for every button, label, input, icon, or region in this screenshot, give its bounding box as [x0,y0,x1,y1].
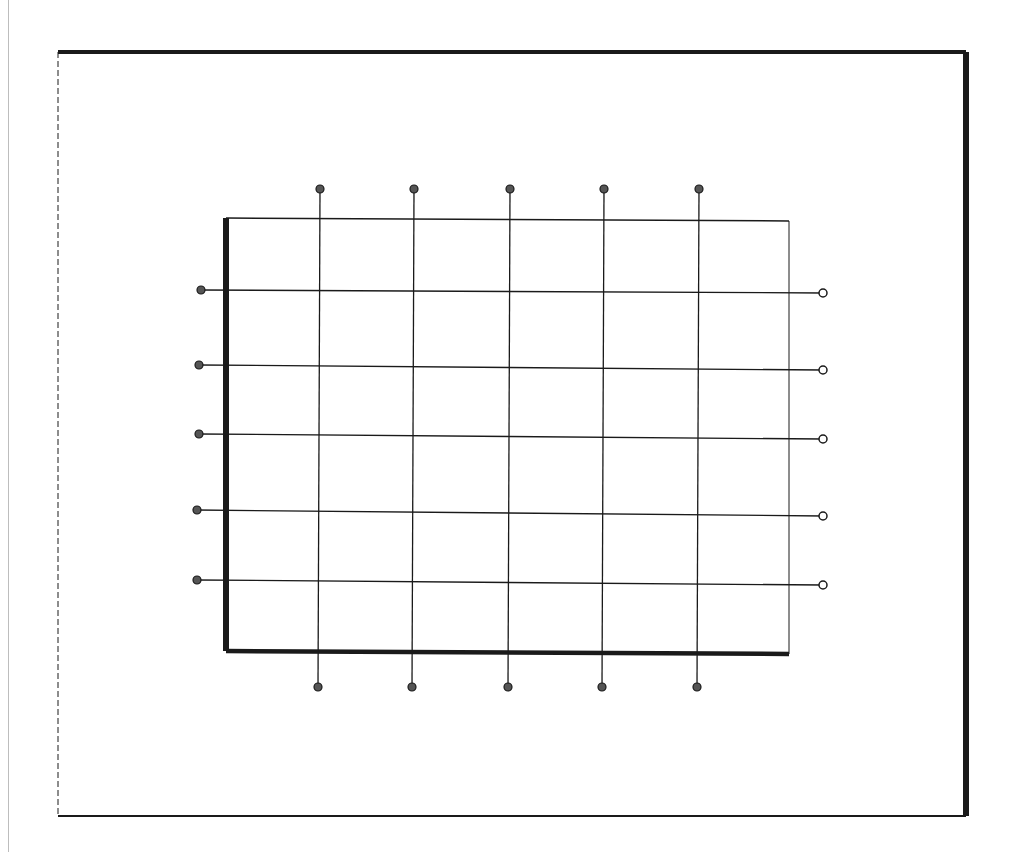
inner-frame-top [226,218,789,221]
terminal-circle-icon [314,683,322,691]
horizontal-grid-line [199,365,823,370]
outer-frame [58,52,966,816]
vertical-grid-line [412,189,414,687]
terminal-circle-icon [819,512,827,520]
terminal-circle-icon [408,683,416,691]
terminal-circle-icon [819,366,827,374]
horizontal-grid-line [199,434,823,439]
horizontal-grid-line [197,510,823,516]
terminal-circle-icon [504,683,512,691]
vertical-grid-line [602,189,604,687]
horizontal-grid-line [197,580,823,585]
terminal-circle-icon [316,185,324,193]
terminal-circle-icon [693,683,701,691]
terminal-circle-icon [195,361,203,369]
terminal-circle-icon [193,506,201,514]
terminal-circle-icon [506,185,514,193]
terminal-circle-icon [195,430,203,438]
terminal-circle-icon [193,576,201,584]
terminal-circle-icon [819,289,827,297]
terminal-circle-icon [819,435,827,443]
horizontal-grid-line [201,290,823,293]
terminal-circle-icon [600,185,608,193]
grid-diagram [0,0,1014,852]
terminal-circle-icon [819,581,827,589]
terminal-circle-icon [410,185,418,193]
terminal-circle-icon [695,185,703,193]
vertical-grid-line [318,189,320,687]
terminal-circle-icon [197,286,205,294]
vertical-grid-line [508,189,510,687]
terminal-circle-icon [598,683,606,691]
